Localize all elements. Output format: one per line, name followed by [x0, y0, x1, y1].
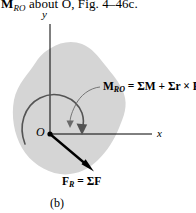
force-equals: = — [74, 175, 86, 187]
caption-symbol: M — [1, 0, 13, 11]
moment-cross: × — [180, 80, 192, 92]
moment-force: F — [193, 80, 196, 92]
x-axis-label: x — [157, 128, 162, 139]
force-equation-label: FR = ΣF — [62, 176, 101, 189]
moment-symbol: M — [103, 80, 114, 92]
force-symbol: F — [62, 175, 69, 187]
rigid-body-shape — [13, 42, 126, 174]
moment-sigma-r: Σr — [168, 80, 180, 92]
moment-plus: + — [156, 80, 168, 92]
figure-4-46b: MRO about O, Fig. 4–46c. y x O MRO = ΣM … — [0, 0, 196, 213]
moment-equation-label: MRO = ΣM + Σr × F — [103, 81, 196, 94]
origin-label: O — [36, 126, 45, 138]
moment-sigma-m: ΣM — [137, 80, 155, 92]
moment-equals: = — [125, 80, 137, 92]
origin-point — [47, 131, 52, 136]
force-sigma-f: ΣF — [87, 175, 102, 187]
caption-symbol-sub2: O — [19, 3, 26, 13]
figure-part-label: (b) — [50, 197, 64, 209]
y-axis-label: y — [42, 9, 47, 20]
caption-top-line: MRO about O, Fig. 4–46c. — [1, 0, 138, 13]
